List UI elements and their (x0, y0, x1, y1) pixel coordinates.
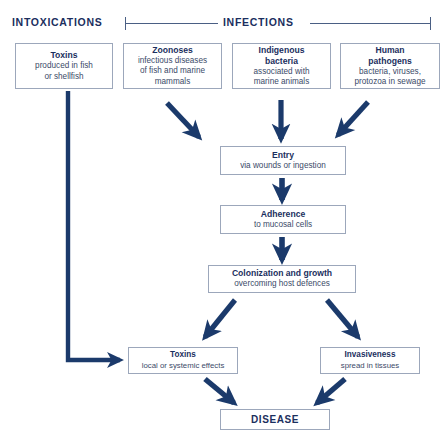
box-subtitle-line: associated with (254, 67, 310, 78)
arrow-colonization-to-invasiveness (327, 300, 358, 337)
box-title: Colonization and growth (232, 268, 332, 279)
flow-diagram-canvas: INTOXICATIONS INFECTIONS Toxins produced… (0, 0, 447, 446)
box-adherence: Adherence to mucosal cells (220, 205, 346, 234)
arrow-human-pathogens-to-entry (338, 102, 368, 135)
box-title-line: Human (375, 45, 404, 56)
arrow-invasiveness-to-disease (317, 379, 345, 403)
box-subtitle-line: of fish and marine (140, 66, 205, 77)
box-subtitle-line: produced in fish (35, 61, 93, 72)
box-disease: DISEASE (220, 409, 330, 430)
box-toxins-source: Toxins produced in fish or shellfish (15, 43, 113, 89)
box-title-line: pathogens (368, 56, 411, 67)
box-subtitle-line: protozoa in sewage (354, 77, 425, 88)
box-subtitle: spread in tissues (341, 361, 400, 371)
box-entry: Entry via wounds or ingestion (220, 146, 346, 175)
box-invasiveness: Invasiveness spread in tissues (320, 347, 420, 374)
box-human-pathogens: Human pathogens bacteria, viruses, proto… (340, 43, 440, 89)
box-toxins-effect: Toxins local or systemic effects (128, 347, 238, 374)
box-title: Invasiveness (345, 350, 396, 361)
box-zoonoses: Zoonoses infectious diseases of fish and… (123, 43, 222, 89)
section-header-infections: INFECTIONS (223, 16, 294, 28)
infections-bracket-right-line (310, 23, 430, 24)
box-title-line: bacteria (265, 56, 298, 67)
box-subtitle: via wounds or ingestion (240, 161, 326, 172)
box-title: Zoonoses (152, 45, 193, 56)
arrow-zoonoses-to-entry (167, 103, 199, 137)
box-title: Entry (272, 150, 294, 161)
box-title: Toxins (50, 50, 77, 61)
box-subtitle-line: infectious diseases (138, 56, 207, 67)
box-subtitle-line: mammals (155, 77, 190, 88)
box-title-line: Indigenous (259, 45, 305, 56)
box-subtitle: local or systemic effects (142, 361, 225, 371)
arrow-colonization-to-toxins (205, 300, 235, 337)
box-title: DISEASE (251, 414, 299, 425)
arrow-toxins-to-disease (205, 379, 234, 403)
box-subtitle: to mucosal cells (254, 220, 312, 231)
infections-bracket-left-line (125, 23, 218, 24)
box-subtitle-line: marine animals (254, 77, 310, 88)
infections-bracket-right-cap (430, 17, 431, 30)
box-colonization-and-growth: Colonization and growth overcoming host … (208, 265, 356, 293)
box-title: Adherence (261, 209, 305, 220)
box-indigenous-bacteria: Indigenous bacteria associated with mari… (232, 43, 331, 89)
arrow-toxins-source-to-toxins-effect (68, 91, 120, 360)
box-subtitle-line: bacteria, viruses, (359, 67, 421, 78)
box-subtitle: overcoming host defences (234, 279, 330, 290)
box-title: Toxins (170, 350, 196, 361)
section-header-intoxications: INTOXICATIONS (12, 16, 102, 28)
box-subtitle-line: or shellfish (44, 72, 83, 83)
